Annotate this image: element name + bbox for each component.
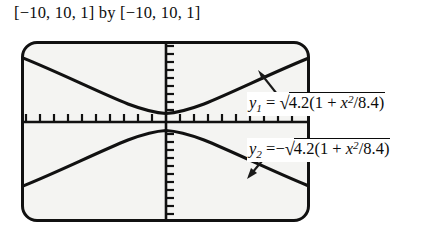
y2-radicand-head: 4.2(1 + <box>294 139 346 158</box>
y2-equals: = <box>266 139 275 158</box>
y2-radicand-variable: x <box>346 139 353 158</box>
y1-radical: √4.2(1 + x2/8.4) <box>280 93 386 112</box>
y1-radicand-variable: x <box>341 93 348 112</box>
y1-equals: = <box>266 93 275 112</box>
y1-subscript: 1 <box>256 102 262 114</box>
y2-subscript: 2 <box>256 148 262 160</box>
y2-radicand: 4.2(1 + x2/8.4) <box>294 138 391 158</box>
y2-negative-sign: − <box>275 139 284 158</box>
equation-label-y1: y1 = √4.2(1 + x2/8.4) <box>247 92 386 116</box>
y2-radicand-tail: /8.4) <box>359 139 390 158</box>
graphing-calculator-figure: [−10, 10, 1] by [−10, 10, 1] <box>0 0 440 235</box>
y1-radicand: 4.2(1 + x2/8.4) <box>289 92 386 112</box>
window-range-caption: [−10, 10, 1] by [−10, 10, 1] <box>14 3 200 23</box>
calculator-screen <box>21 41 310 222</box>
equation-label-y2: y2 =−√4.2(1 + x2/8.4) <box>247 138 391 162</box>
y1-radicand-tail: /8.4) <box>354 93 385 112</box>
y2-radical: √4.2(1 + x2/8.4) <box>285 139 391 158</box>
y1-radicand-head: 4.2(1 + <box>289 93 341 112</box>
plot-canvas <box>24 44 307 219</box>
